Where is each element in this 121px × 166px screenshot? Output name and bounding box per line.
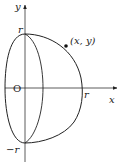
y-axis-label: y: [14, 1, 21, 12]
origin-label: O: [13, 83, 21, 94]
diagram-canvas: y r (x, y) O r x −r: [0, 0, 121, 166]
outer-right-curve: [25, 34, 82, 143]
x-axis-label: x: [109, 94, 115, 105]
inner-ellipse-arc: [25, 34, 43, 143]
top-r-label: r: [18, 24, 24, 35]
right-r-label: r: [84, 89, 90, 100]
point-label: (x, y): [70, 35, 96, 46]
bottom-neg-r-label: −r: [6, 144, 20, 155]
point-xy-dot: [64, 44, 68, 48]
